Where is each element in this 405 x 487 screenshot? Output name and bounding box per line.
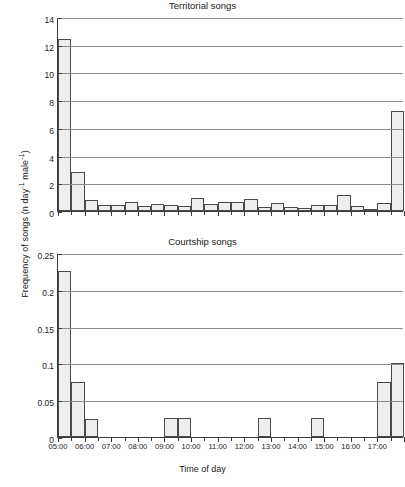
- bar: [191, 198, 204, 211]
- y-axis-tick-label: 0.1: [42, 361, 58, 371]
- x-axis-labels-courtship: 05:0006:0007:0008:0009:0010:0011:0012:00…: [58, 442, 403, 454]
- y-axis-tick-mark: [58, 328, 62, 329]
- x-axis-tick-label: 15:00: [315, 442, 334, 451]
- x-axis-tick-label: 11:00: [208, 442, 226, 451]
- x-axis-tick-mark: [391, 437, 392, 441]
- x-axis-tick-mark: [178, 211, 179, 215]
- x-axis-tick-mark: [98, 211, 99, 215]
- gridline: [58, 18, 403, 19]
- gridline: [58, 184, 403, 185]
- gridline: [58, 291, 403, 292]
- x-axis-tick-label: 06:00: [75, 442, 94, 451]
- x-axis-tick-mark: [151, 437, 152, 441]
- y-axis-tick-mark: [58, 401, 62, 402]
- y-axis-tick-mark: [58, 184, 62, 185]
- gridline: [58, 401, 403, 402]
- x-axis-tick-label: 08:00: [128, 442, 147, 451]
- y-axis-tick-label: 0.2: [42, 288, 58, 298]
- x-axis-tick-mark: [311, 437, 312, 441]
- gridline: [58, 254, 403, 255]
- y-axis-tick-mark: [58, 129, 62, 130]
- y-axis-tick: 0: [49, 203, 58, 221]
- bar: [391, 111, 404, 211]
- y-axis-tick: 8: [49, 92, 58, 110]
- y-axis-tick-mark: [58, 364, 62, 365]
- plot-area-territorial: 02468101214: [57, 18, 403, 212]
- figure-root: Frequency of songs (n day-1 male-1) Terr…: [0, 0, 405, 487]
- x-axis-tick-mark: [364, 437, 365, 441]
- x-axis-tick-label: 10:00: [182, 442, 201, 451]
- bar: [164, 418, 177, 437]
- y-axis-tick-label: 0: [49, 435, 58, 445]
- y-axis-tick-label: 4: [49, 154, 58, 164]
- y-axis-tick: 0: [49, 429, 58, 447]
- y-axis-tick: 14: [45, 9, 58, 27]
- gridline: [58, 73, 403, 74]
- bar-series-territorial: [58, 18, 403, 211]
- x-axis-tick-mark: [71, 437, 72, 441]
- bar: [377, 203, 390, 211]
- y-axis-tick-label: 0.15: [37, 325, 58, 335]
- gridline: [58, 157, 403, 158]
- panel-territorial-songs: Territorial songs 02468101214: [0, 0, 405, 232]
- x-axis-ticks-territorial: [58, 211, 403, 216]
- x-axis-tick-mark: [191, 211, 192, 216]
- y-axis-tick-mark: [58, 157, 62, 158]
- y-axis-tick: 0.2: [42, 282, 58, 300]
- bar: [311, 418, 324, 437]
- x-axis-tick-mark: [98, 437, 99, 441]
- x-axis-tick-label: 07:00: [102, 442, 121, 451]
- gridline: [58, 129, 403, 130]
- x-axis-tick-mark: [231, 437, 232, 441]
- x-axis-tick-mark: [337, 211, 338, 215]
- x-axis-tick-mark: [377, 211, 378, 216]
- y-axis-tick-mark: [58, 101, 62, 102]
- y-axis-tick-label: 6: [49, 126, 58, 136]
- bar: [85, 200, 98, 211]
- gridline: [58, 46, 403, 47]
- y-axis-tick: 4: [49, 148, 58, 166]
- bar: [377, 382, 390, 437]
- y-axis-tick-mark: [58, 438, 62, 439]
- y-axis-tick: 0.1: [42, 355, 58, 373]
- x-axis-tick-mark: [204, 211, 205, 215]
- bar: [71, 382, 84, 437]
- x-axis-tick-mark: [284, 211, 285, 215]
- x-axis-tick-label: 09:00: [155, 442, 174, 451]
- x-axis-tick-mark: [258, 211, 259, 215]
- x-axis-tick-mark: [125, 211, 126, 215]
- y-axis-tick-label: 12: [45, 43, 58, 53]
- plot-area-courtship: 05:0006:0007:0008:0009:0010:0011:0012:00…: [57, 254, 403, 438]
- y-axis-tick: 0.25: [37, 245, 58, 263]
- x-axis-tick-mark: [311, 211, 312, 215]
- bar: [391, 363, 404, 437]
- x-axis-tick-label: 14:00: [288, 442, 307, 451]
- bar: [271, 203, 284, 211]
- x-axis-tick-mark: [138, 211, 139, 216]
- bar: [204, 204, 217, 211]
- y-axis-tick: 2: [49, 175, 58, 193]
- x-axis-tick-label: 13:00: [261, 442, 280, 451]
- y-axis-tick-label: 10: [45, 70, 58, 80]
- y-axis-tick-mark: [58, 254, 62, 255]
- x-axis-tick-mark: [71, 211, 72, 215]
- bar: [125, 202, 138, 211]
- x-axis-tick-mark: [204, 437, 205, 441]
- bar: [58, 271, 71, 437]
- x-axis-tick-mark: [351, 211, 352, 216]
- chart-title-courtship: Courtship songs: [0, 236, 405, 247]
- bar: [178, 418, 191, 437]
- bar: [85, 419, 98, 437]
- x-axis-tick-mark: [298, 211, 299, 216]
- gridline: [58, 328, 403, 329]
- y-axis-tick-mark: [58, 291, 62, 292]
- bar: [337, 195, 350, 211]
- bar-series-courtship: [58, 254, 403, 437]
- x-axis-tick-mark: [364, 211, 365, 215]
- x-axis-tick-mark: [218, 211, 219, 216]
- y-axis-tick-mark: [58, 18, 62, 19]
- y-axis-tick-label: 0.25: [37, 251, 58, 261]
- x-axis-tick-label: 16:00: [341, 442, 360, 451]
- y-axis-tick: 0.05: [37, 392, 58, 410]
- y-axis-tick: 10: [45, 64, 58, 82]
